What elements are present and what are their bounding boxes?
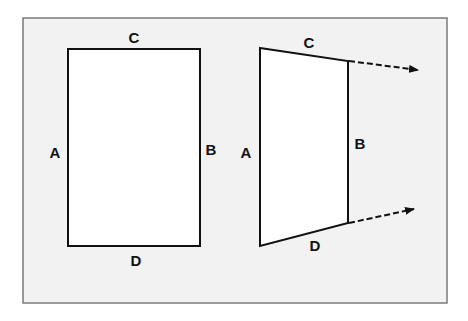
diagram-canvas: C B D A C B D A: [0, 0, 468, 321]
trapezoid-shape: [260, 48, 348, 246]
left-label-left: A: [50, 144, 61, 161]
left-label-right: B: [206, 141, 217, 158]
right-label-right: B: [355, 135, 366, 152]
right-label-left: A: [241, 144, 252, 161]
right-label-top: C: [304, 34, 315, 51]
left-label-bottom: D: [131, 252, 142, 269]
left-figure-rectangle: C B D A: [50, 29, 217, 269]
rectangle-shape: [68, 49, 200, 246]
left-label-top: C: [129, 29, 140, 46]
right-label-bottom: D: [310, 237, 321, 254]
